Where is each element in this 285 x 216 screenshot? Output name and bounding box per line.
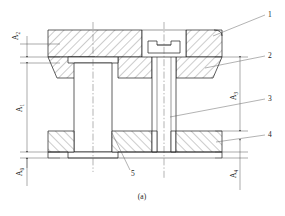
dimension-A3: A3	[229, 57, 240, 131]
dimension-A4-label: A4	[229, 170, 239, 178]
figure-caption: (a)	[138, 192, 147, 201]
dimension-A1-label: A1	[15, 104, 25, 112]
callout-3-label: 3	[268, 94, 272, 103]
technical-drawing: A2 A1 A0 A3	[0, 0, 285, 216]
callout-5-label: 5	[131, 169, 135, 178]
callout-2-label: 2	[268, 51, 272, 60]
dimension-A0: A0	[15, 158, 27, 186]
dimension-A2-label: A2	[11, 32, 21, 40]
dimension-A3-label: A3	[229, 92, 239, 100]
upper-die-block	[48, 30, 222, 57]
guide-bush	[112, 131, 152, 152]
dimension-right-group: A3 A4	[215, 57, 248, 190]
figure-canvas: A2 A1 A0 A3	[0, 0, 285, 216]
dimension-A2: A2	[11, 32, 27, 57]
callout-4-label: 4	[268, 130, 272, 139]
callout-1-label: 1	[268, 10, 272, 19]
dimension-A0-label: A0	[15, 168, 25, 176]
dimension-A1: A1	[15, 63, 27, 152]
dimension-A4: A4	[229, 140, 240, 190]
